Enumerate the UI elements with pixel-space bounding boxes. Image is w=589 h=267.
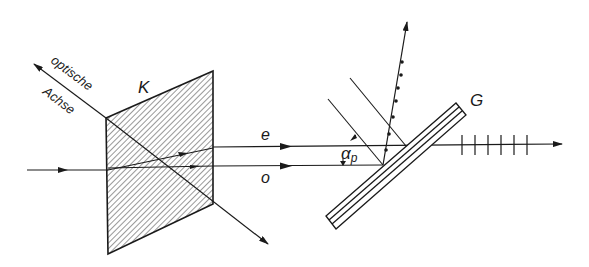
alpha-subscript: p xyxy=(350,151,358,165)
extraordinary-ray xyxy=(213,143,562,150)
normal-lines xyxy=(328,78,406,165)
label-o: o xyxy=(261,169,270,186)
label-k: K xyxy=(138,78,150,97)
ordinary-ray xyxy=(213,163,383,170)
label-g: G xyxy=(470,91,483,110)
crystal-k xyxy=(106,71,213,254)
polarization-diagram: K optische Achse e o αp G xyxy=(0,0,589,267)
label-achse: Achse xyxy=(39,83,78,117)
incident-ray xyxy=(27,167,108,173)
label-alpha-p: αp xyxy=(341,144,358,165)
label-e: e xyxy=(261,126,270,143)
